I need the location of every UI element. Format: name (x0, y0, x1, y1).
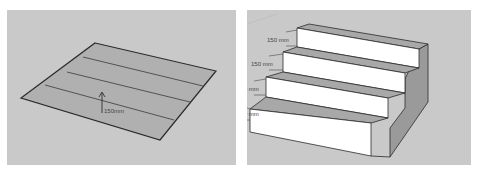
base-edge (371, 156, 390, 157)
height-label: 150mm (104, 108, 124, 114)
flat-plane-drawing: 150mm (7, 10, 236, 165)
step-3-dimension: 150 mm (251, 61, 273, 67)
flat-plane-viewport: 150mm (7, 10, 236, 165)
plane-face (21, 43, 216, 140)
axis-line (247, 14, 277, 24)
step-1-dimension: 150 mm (247, 111, 259, 117)
step-4-dimension: 150 mm (267, 37, 289, 43)
step-2-dimension: 150 mm (247, 86, 259, 92)
stairs-viewport: 150 mm 150 mm 150 mm 150 mm (247, 10, 471, 165)
stairs-drawing: 150 mm 150 mm 150 mm 150 mm (247, 10, 471, 165)
